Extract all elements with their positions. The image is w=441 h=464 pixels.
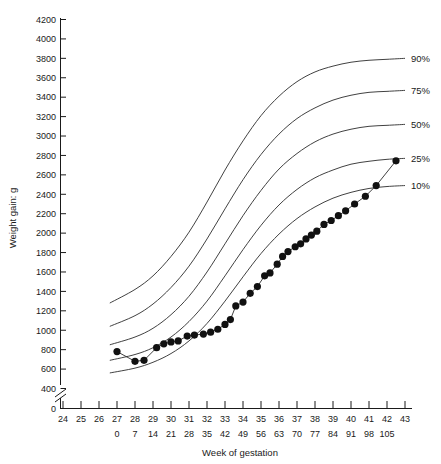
x-axis-title: Week of gestation	[202, 447, 278, 458]
data-point	[227, 316, 234, 323]
x-tick-label-week: 27	[112, 414, 122, 424]
x-axis-day-labels: 0714212835424956637077849198105	[114, 429, 394, 439]
x-tick-label-day: 98	[364, 429, 374, 439]
data-point	[392, 157, 399, 164]
y-tick-label: 3600	[36, 73, 56, 83]
data-point	[266, 269, 273, 276]
x-tick-label-week: 34	[238, 414, 248, 424]
data-point	[313, 228, 320, 235]
data-point	[160, 340, 167, 347]
data-point	[274, 261, 281, 268]
data-point	[351, 200, 358, 207]
data-point	[362, 193, 369, 200]
y-tick-label: 2400	[36, 190, 56, 200]
x-tick-label-week: 24	[58, 414, 68, 424]
y-tick-label: 3200	[36, 112, 56, 122]
x-tick-label-day: 14	[148, 429, 158, 439]
x-tick-label-week: 39	[328, 414, 338, 424]
x-tick-label-day: 49	[238, 429, 248, 439]
data-point	[191, 331, 198, 338]
y-axis-ticks: 4006008001000120014001600180020002200240…	[36, 15, 66, 394]
data-point	[221, 321, 228, 328]
x-tick-label-week: 30	[166, 414, 176, 424]
x-tick-label-week: 40	[346, 414, 356, 424]
x-tick-label-day: 84	[328, 429, 338, 439]
y-tick-label: 4000	[36, 34, 56, 44]
y-tick-label: 1600	[36, 267, 56, 277]
data-point	[297, 240, 304, 247]
x-tick-label-week: 41	[364, 414, 374, 424]
x-tick-label-day: 42	[220, 429, 230, 439]
percentile-curve-25pct	[110, 158, 405, 360]
x-tick-label-day: 35	[202, 429, 212, 439]
x-tick-label-week: 33	[220, 414, 230, 424]
x-tick-label-day: 56	[256, 429, 266, 439]
data-point	[131, 358, 138, 365]
y-tick-label: 3800	[36, 54, 56, 64]
y-tick-label: 800	[41, 345, 56, 355]
y-tick-label: 400	[41, 384, 56, 394]
data-point	[328, 217, 335, 224]
percentile-curve-90pct	[110, 58, 405, 303]
y-axis-zero-label: 0	[51, 404, 56, 414]
percentile-label-75pct: 75%	[411, 85, 431, 96]
x-tick-label-day: 70	[292, 429, 302, 439]
y-tick-label: 1000	[36, 326, 56, 336]
data-point	[184, 332, 191, 339]
x-tick-label-day: 77	[310, 429, 320, 439]
x-tick-label-week: 25	[76, 414, 86, 424]
data-point	[175, 337, 182, 344]
data-point	[247, 290, 254, 297]
x-tick-label-week: 43	[400, 414, 410, 424]
y-tick-label: 3400	[36, 92, 56, 102]
data-point	[239, 298, 246, 305]
percentile-curve-10pct	[110, 186, 405, 373]
data-point	[232, 302, 239, 309]
y-tick-label: 1400	[36, 287, 56, 297]
x-tick-label-day: 21	[166, 429, 176, 439]
percentile-labels: 90%75%50%25%10%	[411, 53, 431, 191]
y-tick-label: 3000	[36, 131, 56, 141]
x-tick-label-day: 28	[184, 429, 194, 439]
y-axis-title: Weight gain: g	[7, 188, 18, 249]
data-point	[373, 182, 380, 189]
data-point	[342, 207, 349, 214]
x-tick-label-day: 91	[346, 429, 356, 439]
chart-canvas: 4006008001000120014001600180020002200240…	[0, 0, 441, 464]
x-tick-label-day: 105	[379, 429, 394, 439]
observed-connector-line	[117, 161, 396, 362]
x-tick-label-week: 42	[382, 414, 392, 424]
percentile-label-10pct: 10%	[411, 180, 431, 191]
data-point	[284, 248, 291, 255]
percentile-label-90pct: 90%	[411, 53, 431, 64]
x-tick-label-week: 26	[94, 414, 104, 424]
data-point	[153, 344, 160, 351]
data-point	[320, 221, 327, 228]
x-tick-label-day: 7	[132, 429, 137, 439]
percentile-curve-75pct	[110, 90, 405, 326]
x-tick-label-week: 32	[202, 414, 212, 424]
x-tick-label-day: 0	[114, 429, 119, 439]
y-tick-label: 2200	[36, 209, 56, 219]
y-tick-label: 1800	[36, 248, 56, 258]
percentile-curve-50pct	[110, 124, 405, 344]
x-tick-label-week: 38	[310, 414, 320, 424]
y-tick-label: 2000	[36, 228, 56, 238]
percentile-label-25pct: 25%	[411, 153, 431, 164]
data-point	[335, 212, 342, 219]
y-tick-label: 1200	[36, 306, 56, 316]
data-point	[200, 331, 207, 338]
x-tick-label-week: 31	[184, 414, 194, 424]
growth-chart: 4006008001000120014001600180020002200240…	[0, 0, 441, 464]
x-tick-label-week: 29	[148, 414, 158, 424]
x-axis-ticks: 2425262728293031323334353637383940414243	[58, 401, 410, 424]
x-tick-label-week: 36	[274, 414, 284, 424]
data-point	[167, 338, 174, 345]
y-tick-label: 2600	[36, 170, 56, 180]
data-point	[214, 326, 221, 333]
data-point	[207, 329, 214, 336]
y-tick-label: 600	[41, 364, 56, 374]
observed-data-series	[113, 157, 399, 365]
data-point	[254, 283, 261, 290]
x-tick-label-week: 28	[130, 414, 140, 424]
